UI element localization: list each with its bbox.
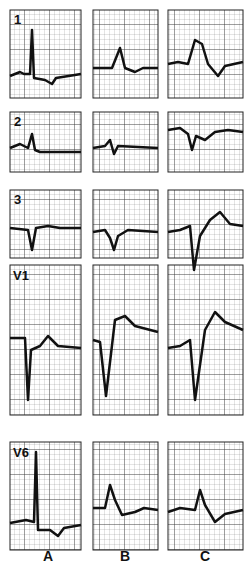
lead-label-1: 1 <box>14 12 21 27</box>
lead-label-3: 3 <box>14 192 21 207</box>
column-label-b: B <box>120 548 130 564</box>
column-label-a: A <box>43 548 53 564</box>
ecg-grids <box>0 0 252 578</box>
lead-label-v6: V6 <box>13 445 29 460</box>
lead-label-v1: V1 <box>13 268 29 283</box>
column-label-c: C <box>200 548 210 564</box>
lead-label-2: 2 <box>14 114 21 129</box>
ecg-figure: 1 2 3 V1 V6 A B C <box>0 0 252 578</box>
